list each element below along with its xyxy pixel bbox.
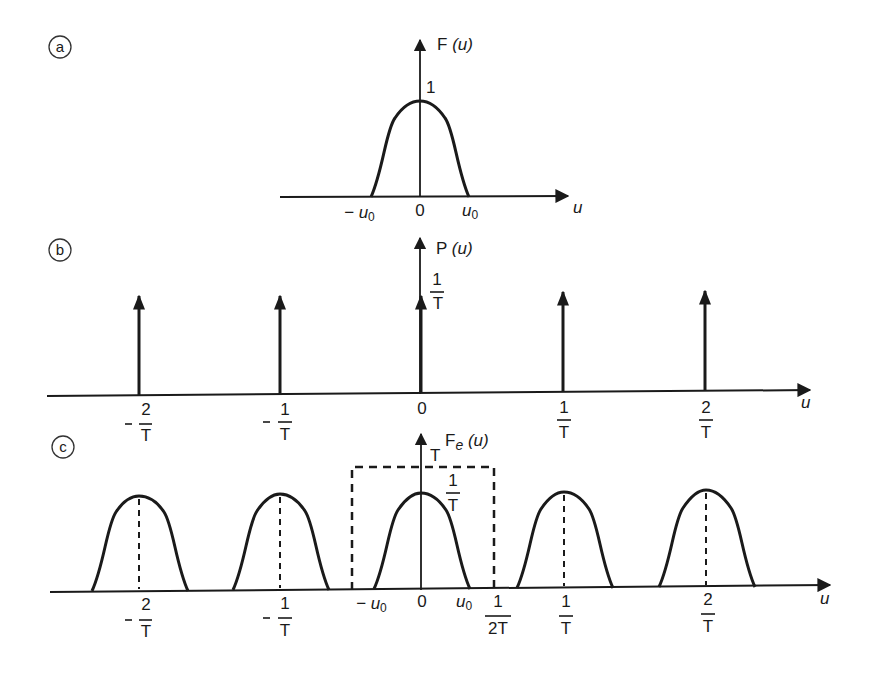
- x-axis-label: u: [801, 393, 811, 412]
- svg-text:1: 1: [561, 592, 570, 611]
- ideal-filter-box: [352, 467, 494, 590]
- svg-text:2: 2: [701, 398, 710, 417]
- x-axis-label: u: [573, 198, 583, 217]
- panel-b: b P (u) 1 T 2 T 1 T 0 1: [47, 238, 811, 445]
- tick-cutoff-1-2T: 1 2T: [485, 592, 511, 638]
- tick-pos2T: 2 T: [701, 590, 715, 636]
- impulse-height-den: T: [433, 294, 443, 313]
- axis-label-F: F (u): [437, 35, 473, 54]
- svg-text:2T: 2T: [488, 619, 508, 638]
- sampling-spectrum-figure: a F (u) 1 − u0 0 u0 u b P (u) 1 T 2: [0, 0, 871, 673]
- svg-text:2: 2: [141, 400, 150, 419]
- tick-neg1T: 1 T: [263, 400, 292, 444]
- filter-height-label: T: [430, 446, 440, 465]
- panel-c: c Fe (u) T 1 T − u0 0 u0 1 2T: [50, 431, 830, 641]
- tick-neg-u0: − u0: [344, 203, 375, 224]
- tick-neg1T: 1 T: [263, 594, 292, 640]
- panel-b-letter: b: [56, 241, 64, 258]
- panel-c-letter: c: [59, 438, 67, 455]
- svg-text:1: 1: [280, 400, 289, 419]
- tick-neg2T: 2 T: [125, 400, 152, 445]
- x-axis: [47, 390, 810, 396]
- svg-text:T: T: [141, 426, 151, 445]
- impulse-height-num: 1: [432, 270, 441, 289]
- svg-text:2: 2: [141, 595, 150, 614]
- tick-pos1T: 1 T: [559, 592, 573, 638]
- svg-text:1: 1: [280, 594, 289, 613]
- axis-label-P: P (u): [436, 239, 473, 258]
- svg-text:T: T: [561, 619, 571, 638]
- tick-pos1T: 1 T: [557, 398, 571, 442]
- tick-zero: 0: [417, 592, 426, 611]
- tick-u0: u0: [462, 201, 478, 222]
- peak-label: 1: [426, 78, 435, 97]
- svg-text:T: T: [703, 617, 713, 636]
- svg-text:T: T: [141, 622, 151, 641]
- panel-a-letter: a: [56, 38, 65, 55]
- x-axis: [280, 196, 568, 197]
- tick-neg-u0: − u0: [356, 594, 387, 615]
- tick-u0: u0: [456, 592, 472, 613]
- svg-text:T: T: [280, 621, 290, 640]
- tick-pos2T: 2 T: [699, 398, 713, 442]
- svg-text:T: T: [280, 425, 290, 444]
- svg-text:1: 1: [493, 592, 502, 611]
- svg-text:2: 2: [703, 590, 712, 609]
- x-axis: [50, 585, 830, 592]
- svg-text:T: T: [701, 423, 711, 442]
- tick-zero: 0: [415, 201, 424, 220]
- peak-den: T: [448, 496, 458, 515]
- axis-label-Fe: Fe (u): [445, 431, 489, 453]
- svg-text:T: T: [559, 423, 569, 442]
- tick-zero: 0: [417, 399, 426, 418]
- panel-a: a F (u) 1 − u0 0 u0 u: [49, 35, 583, 224]
- x-axis-label: u: [820, 589, 830, 608]
- peak-num: 1: [448, 471, 457, 490]
- svg-text:1: 1: [559, 398, 568, 417]
- tick-neg2T: 2 T: [125, 595, 152, 641]
